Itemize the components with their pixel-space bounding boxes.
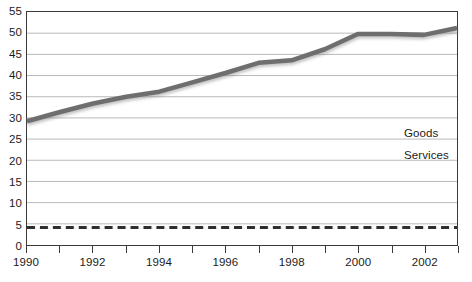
x-tick-mark	[259, 246, 260, 253]
x-tick-mark	[225, 246, 226, 253]
x-tick-mark	[392, 246, 393, 253]
y-tick-label: 5	[16, 219, 23, 231]
x-tick-label: 2002	[412, 256, 438, 268]
x-tick-mark	[159, 246, 160, 253]
legend: Goods Services	[349, 122, 461, 166]
x-tick-label: 1992	[79, 256, 105, 268]
x-tick-mark	[358, 246, 359, 253]
x-tick-label: 1996	[212, 256, 238, 268]
legend-item-services: Services	[349, 144, 461, 166]
series-line-services	[27, 227, 457, 228]
x-tick-mark	[126, 246, 127, 253]
y-tick-label: 50	[9, 26, 22, 38]
y-tick-label: 25	[9, 133, 22, 145]
legend-swatch-services	[349, 148, 395, 162]
y-tick-label: 40	[9, 69, 22, 81]
x-axis: 1990199219941996199820002002	[26, 256, 458, 276]
x-tick-mark	[26, 246, 27, 253]
line-chart: 0510152025303540455055 19901992199419961…	[0, 0, 472, 282]
x-tick-mark	[325, 246, 326, 253]
x-tick-label: 1998	[279, 256, 305, 268]
x-tick-mark	[458, 246, 459, 253]
y-tick-label: 45	[9, 48, 22, 60]
series-line-goods	[27, 28, 457, 121]
x-tick-mark	[59, 246, 60, 253]
legend-label-services: Services	[404, 149, 449, 161]
y-axis: 0510152025303540455055	[0, 11, 22, 246]
x-tick-mark	[192, 246, 193, 253]
x-axis-ticks	[26, 246, 458, 254]
x-tick-label: 1994	[146, 256, 172, 268]
y-tick-label: 20	[9, 155, 22, 167]
legend-swatch-goods	[349, 126, 395, 140]
y-tick-label: 0	[16, 240, 23, 252]
legend-item-goods: Goods	[349, 122, 461, 144]
x-tick-mark	[425, 246, 426, 253]
x-tick-mark	[292, 246, 293, 253]
y-tick-label: 30	[9, 112, 22, 124]
x-tick-label: 1990	[13, 256, 39, 268]
y-tick-label: 10	[9, 197, 22, 209]
y-tick-label: 15	[9, 176, 22, 188]
y-tick-label: 55	[9, 5, 22, 17]
x-tick-mark	[92, 246, 93, 253]
y-tick-label: 35	[9, 90, 22, 102]
x-tick-label: 2000	[345, 256, 371, 268]
legend-label-goods: Goods	[404, 127, 438, 139]
